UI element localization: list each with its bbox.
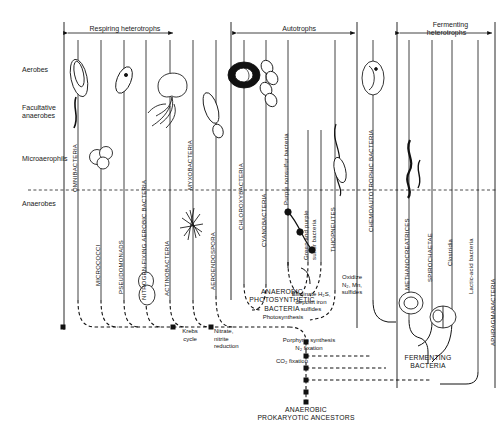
group-header-autotrophs: Autotrophs — [243, 17, 348, 41]
group-header-fermenting-heterotrophs: Fermenting heterotrophs — [404, 13, 489, 45]
organism-micrococci — [90, 147, 113, 170]
column-label-cyanobacteria: CYANOBACTERIA — [261, 194, 267, 248]
organism-omnibacteria — [67, 58, 91, 128]
column-label-pseudomonads: PSEUDOMONADS — [118, 240, 124, 294]
figure-canvas: Respiring heterotrophs Autotrophs Fermen… — [0, 0, 503, 448]
group-header-respiring-heterotrophs: Respiring heterotrophs — [72, 17, 170, 41]
column-label-lactic-acid-bacteria: Lactic-acid bacteria — [468, 238, 474, 294]
organism-actinobacteria — [148, 73, 187, 128]
column-label-actinobacteria: ACTINOBACTERIA — [164, 241, 170, 296]
column-label-aeroendospora: AEROENDOSPORA — [210, 232, 216, 290]
annotation-anaerobic-prokaryotic-ancestors: ANAEROBIC PROKARYOTIC ANCESTORS — [246, 406, 366, 423]
column-label-thiopneutes: THIOPNEUTES — [330, 207, 336, 252]
column-label-myxobacteria: MYXOBACTERIA — [187, 140, 193, 190]
organism-pseudomonads — [112, 64, 135, 95]
organism-clostridia — [430, 306, 456, 328]
organism-chloroxybacteria — [228, 62, 260, 88]
organism-aeroendospora — [200, 91, 225, 139]
annotation-krebs-cycle: Krebs cycle — [176, 328, 204, 343]
row-label-microaerophils: Microaerophils — [22, 155, 68, 163]
annotation-oxidize: Oxidize N₂, Mn, sulfides — [334, 274, 370, 297]
column-label-spirochaetae: SPIROCHAETAE — [427, 233, 433, 282]
annotation-porphyrin-synthesis: Porphyrin synthesis — [272, 337, 346, 345]
row-label-facultative-anaerobes: Facultative anaerobes — [22, 104, 56, 120]
annotation-n2-fixation: N₂ fixation — [286, 345, 332, 353]
descent-branch-lines — [78, 262, 430, 390]
annotation-nitrate-nitrite-reduction: Nitrate, nitrite reduction — [214, 328, 258, 351]
column-label-methanocreatrices: METHANOCREATRICES — [404, 218, 410, 290]
organism-myxobacteria — [180, 208, 203, 240]
row-label-aerobes: Aerobes — [22, 66, 48, 74]
annotation-photosynthesis: Photosynthesis — [252, 314, 314, 322]
column-label-clostridia: Clostridia — [447, 239, 453, 266]
organism-methanocreatrices — [399, 292, 423, 314]
column-label-micrococci: MICROCOCCI — [95, 245, 101, 286]
column-label-purple-nonsulfur-bacteria: Purple nonsulfur bacteria — [283, 133, 289, 205]
annotation-eliminate-sulfides: Eliminate H₂S, deposit iron sulfides — [285, 291, 337, 314]
column-label-nitrogen-fixing-aerobic-bacteria: NITROGEN-FIXING AEROBIC BACTERIA — [141, 180, 147, 300]
annotation-co2-fixation: CO₂ fixation — [276, 358, 308, 366]
column-label-chloroxybacteria: CHLOROXYBACTERIA — [238, 163, 244, 230]
diagram-vector-layer — [0, 0, 503, 448]
column-label-chemoautotrophic-bacteria: CHEMOAUTOTROPHIC BACTERIA — [368, 129, 374, 232]
column-label-aphragmabacteria: APHRAGMABACTERIA — [490, 278, 496, 346]
organism-cyanobacteria — [258, 58, 281, 109]
row-label-anaerobes: Anaerobes — [22, 200, 56, 208]
column-stems — [78, 40, 478, 372]
column-label-omnibacteria: OMNIBACTERIA — [72, 144, 78, 192]
annotation-fermenting-bacteria: FERMENTING BACTERIA — [396, 354, 460, 371]
organism-thiopneutes — [332, 124, 349, 196]
column-label-green-and-purple-sulfur-bacteria: Green and purple sulfur bacteria — [303, 198, 318, 260]
organism-chemoautotrophic — [362, 61, 384, 95]
